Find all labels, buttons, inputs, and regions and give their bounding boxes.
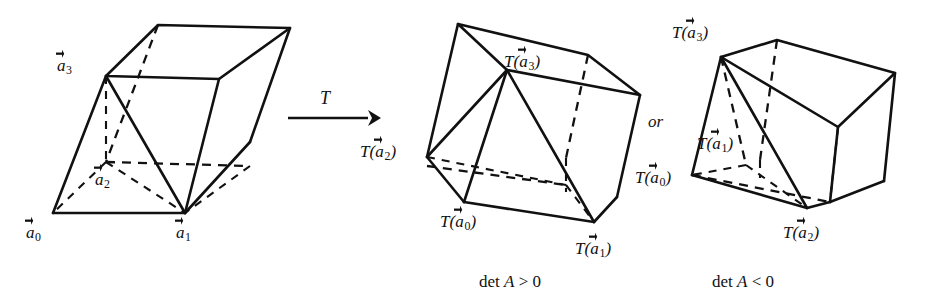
or-connector-label: or (648, 112, 663, 132)
vector-arrow-a3: a (57, 57, 66, 74)
panel-source-geometry (53, 25, 290, 213)
relation-greater: > (519, 272, 529, 291)
pos-bottom-front-edge (464, 202, 594, 222)
neg-right-back-edge (884, 73, 895, 181)
vector-arrow-Ta0: a (650, 169, 659, 186)
label-T-a0-positive: T(a0) (440, 213, 476, 233)
neg-top-face (721, 40, 895, 127)
matrix-name: A (504, 272, 514, 291)
vector-arrow-Ta3: a (519, 53, 528, 70)
label-T-a0-negative: T(a0) (635, 169, 671, 189)
transform-arrow-icon (288, 110, 381, 126)
vector-arrow-Ta2: a (375, 143, 384, 160)
subscript-2: 2 (104, 177, 110, 191)
source-hidden-back-vertical (106, 25, 158, 162)
vector-arrow-Ta1: a (712, 135, 721, 152)
vector-arrow-Ta2: a (798, 224, 807, 241)
neg-hidden-back-bottom (692, 175, 830, 202)
vector-arrow-a1: a (176, 224, 185, 241)
source-hidden-a2-to-a1 (106, 162, 185, 213)
vector-arrow-a0: a (26, 224, 35, 241)
label-a0: a0 (26, 224, 41, 244)
t-close-paren: ) (390, 142, 396, 161)
neg-tetra-edge-a3-a2 (721, 57, 807, 208)
value-zero: 0 (766, 272, 775, 291)
vector-arrow-a2: a (95, 171, 104, 188)
matrix-name: A (737, 272, 747, 291)
t-close-paren: ) (665, 168, 671, 187)
label-T-a2-positive: T(a2) (360, 143, 396, 163)
pos-hidden-back-vertical (566, 55, 588, 158)
label-a3: a3 (57, 57, 72, 77)
source-top-face (106, 25, 290, 79)
pos-edge-a3-a2 (427, 70, 507, 157)
t-open-paren: T( (440, 212, 455, 231)
vector-arrow-Ta0: a (455, 213, 464, 230)
neg-bottom-right-short (807, 202, 830, 208)
t-open-paren: T( (575, 239, 590, 258)
figure-vector-graphics (0, 0, 933, 306)
t-close-paren: ) (605, 239, 611, 258)
source-left-edge (53, 76, 106, 213)
t-close-paren: ) (813, 223, 819, 242)
neg-left-edge-a3-a0 (692, 57, 721, 175)
label-a1: a1 (176, 224, 191, 244)
t-close-paren: ) (727, 134, 733, 153)
transform-label-T: T (320, 88, 330, 109)
t-open-paren: T( (783, 223, 798, 242)
vector-arrow-Ta3: a (687, 24, 696, 41)
vector-arrow-Ta1: a (590, 240, 599, 257)
label-T-a3-positive: T(a3) (504, 53, 540, 73)
t-open-paren: T( (635, 168, 650, 187)
t-close-paren: ) (702, 23, 708, 42)
caption-det-negative: det A < 0 (712, 272, 774, 292)
label-a2: a2 (95, 171, 110, 191)
label-T-a1-negative: T(a1) (697, 135, 733, 155)
label-T-a3-negative: T(a3) (672, 24, 708, 44)
t-close-paren: ) (470, 212, 476, 231)
t-open-paren: T( (697, 134, 712, 153)
caption-det-positive: det A > 0 (479, 272, 541, 292)
label-T-a1-positive: T(a1) (575, 240, 611, 260)
pos-left-long-edge (427, 24, 458, 157)
subscript-1: 1 (185, 230, 191, 244)
pos-right-bottom-edge (594, 197, 617, 222)
value-zero: 0 (533, 272, 542, 291)
label-T-a2-negative: T(a2) (783, 224, 819, 244)
neg-hidden-a1-to-a0 (692, 165, 746, 175)
arrow-head (368, 110, 381, 126)
t-open-paren: T( (360, 142, 375, 161)
det-word: det (712, 272, 733, 291)
subscript-0: 0 (35, 230, 41, 244)
source-right-back-edge (250, 28, 290, 142)
subscript-3: 3 (66, 63, 72, 77)
relation-less: < (752, 272, 762, 291)
t-close-paren: ) (534, 52, 540, 71)
det-word: det (479, 272, 500, 291)
pos-top-face (458, 24, 640, 95)
t-open-paren: T( (504, 52, 519, 71)
panel-det-negative-geometry (692, 40, 895, 208)
t-open-paren: T( (672, 23, 687, 42)
source-tetra-edge-a3-a1 (106, 76, 185, 213)
neg-right-bottom-edge (830, 181, 884, 202)
figure-canvas: a0 a1 a2 a3 T T(a3) T(a2) T(a0) T(a1) de… (0, 0, 933, 306)
pos-edge-a3-a0 (464, 70, 507, 202)
